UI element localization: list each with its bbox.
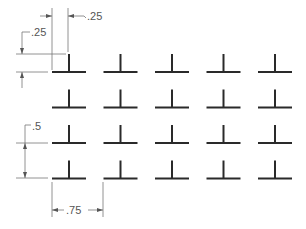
inverted-t-shape (207, 90, 241, 108)
inverted-t-shape (258, 125, 292, 143)
arrow-icon (97, 208, 103, 212)
t-shape-grid (52, 54, 292, 179)
dimension-label: .5 (32, 120, 41, 132)
inverted-t-shape (52, 125, 86, 143)
arrow-icon (52, 208, 58, 212)
inverted-t-shape (207, 161, 241, 179)
inverted-t-shape (207, 125, 241, 143)
dimension-left-25: .25 (16, 26, 66, 88)
inverted-t-shape (155, 125, 189, 143)
inverted-t-shape (155, 54, 189, 72)
inverted-t-shape (155, 161, 189, 179)
dimension-bottom-75: .75 (52, 182, 103, 217)
inverted-t-shape (258, 90, 292, 108)
inverted-t-shape (104, 161, 138, 179)
inverted-t-shape (258, 161, 292, 179)
inverted-t-shape (104, 90, 138, 108)
arrow-icon (46, 14, 52, 18)
dimension-top-25: .25 (40, 8, 102, 70)
inverted-t-shape (52, 161, 86, 179)
arrow-icon (20, 48, 24, 54)
dimension-left-5: .5 (16, 120, 48, 178)
dimension-label: .25 (31, 26, 46, 38)
dimensioned-t-grid-drawing: .25 .25 .5 .75 (0, 0, 306, 229)
inverted-t-shape (207, 54, 241, 72)
inverted-t-shape (52, 54, 86, 72)
dimension-label: .25 (87, 10, 102, 22)
dimension-label: .75 (66, 204, 81, 216)
inverted-t-shape (52, 90, 86, 108)
arrow-icon (68, 14, 74, 18)
inverted-t-shape (104, 125, 138, 143)
inverted-t-shape (258, 54, 292, 72)
arrow-icon (23, 172, 27, 178)
arrow-icon (20, 72, 24, 78)
inverted-t-shape (155, 90, 189, 108)
leader-line (84, 16, 86, 18)
inverted-t-shape (104, 54, 138, 72)
arrow-icon (23, 143, 27, 149)
